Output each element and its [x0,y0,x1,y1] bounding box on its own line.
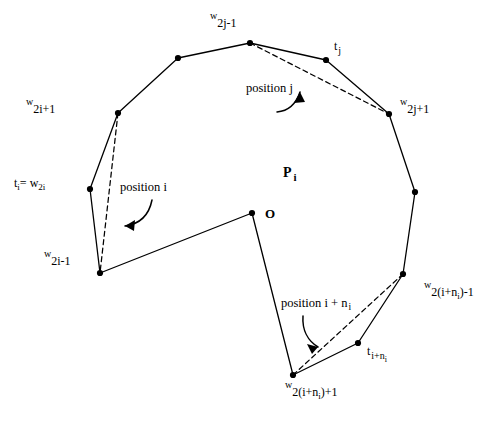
label-w-2-i-plus-ni-plus-1: w2(i+ni)+1 [285,383,338,398]
label-t-i-equals-w-2i: ti= w2i [14,177,45,189]
label-t-ini-sub: i+ni [371,350,387,361]
vertex-origin-o [249,210,255,216]
annotation-position-i-plus-ni: position i + ni [281,297,350,310]
label-w-2i-plus-1-base: w [26,96,33,107]
label-w-2j-minus-1-sub: 2j-1 [217,16,236,30]
label-t-ini-sub-sub: i [385,355,387,364]
annotation-position-i-text: position i [120,180,167,194]
annotation-arrowheads [125,92,318,354]
label-w-2iniplus1-base: w [285,379,292,390]
label-w-2i-plus-1: w2i+1 [26,100,55,115]
vertex-w-2-i-plus-ni-minus-1 [400,271,406,277]
label-w-2i-minus-1-base: w [44,248,51,259]
annotation-position-j-text: position j [246,81,293,95]
label-w-2i-minus-1: w2i-1 [44,252,71,267]
label-w-2j-plus-1-base: w [400,96,407,107]
vertex-w-2i-plus-1 [115,110,121,116]
label-w-2iniplus1-sub-sub: i [318,391,321,401]
label-t-j: tj [334,40,340,52]
label-w-2i-plus-1-sub: 2i+1 [33,102,55,116]
label-w-2i-minus-1-sub: 2i-1 [51,254,70,268]
label-w-2iniplus1-sub: 2(i+ni)+1 [292,385,337,399]
annotation-position-j: position j [246,82,293,95]
label-w-2iniplus1-sub-pre: 2(i+n [292,385,318,399]
label-w-2inimin1-base: w [424,279,431,290]
vertex-t-j [323,57,329,63]
label-equals-w: = w [20,176,38,190]
label-w-2inimin1-sub: 2(i+ni)-1 [431,285,474,299]
label-origin-o: O [265,207,275,220]
label-w-2-i-plus-ni-minus-1: w2(i+ni)-1 [424,283,474,298]
label-w-2i-sub: 2i [38,182,45,192]
label-polygon-p-sub: i [294,171,297,183]
label-w-2j-minus-1-base: w [210,10,217,21]
label-t-i-sub: i [17,182,20,192]
vertex-right-mid [412,189,418,195]
annotation-position-i-plus-ni-sub: i [348,302,351,312]
annotation-position-i: position i [120,181,167,194]
arrow-position-i-plus-ni [303,316,318,347]
annotation-position-i-plus-ni-pre: position i + n [281,296,347,310]
chord-position-j [250,43,389,114]
label-w-2inimin1-sub-sub: i [457,291,460,301]
label-polygon-p-i: Pi [283,166,295,180]
vertex-upper-left-mid [175,55,181,61]
arrow-position-i [125,200,152,226]
label-w-2iniplus1-sub-post: )+1 [321,385,338,399]
label-t-i-plus-ni: ti+ni [367,345,386,357]
label-t-j-base: t [334,39,337,53]
arrowhead-position-j [294,92,305,103]
vertex-w-2-i-plus-ni-plus-1 [290,372,296,378]
vertex-t-i-plus-ni [355,340,361,346]
label-t-ini-base: t [367,344,370,358]
vertex-w-2i-minus-1 [97,270,103,276]
polygon-diagram: w2j-1 tj w2j+1 w2i+1 ti= w2i w2i-1 w2(i+… [0,0,503,423]
vertex-t-i-eq-w-2i [87,186,93,192]
vertex-w-2j-plus-1 [386,111,392,117]
label-w-2j-plus-1: w2j+1 [400,100,429,115]
label-w-2inimin1-sub-pre: 2(i+n [431,285,457,299]
diagram-canvas [0,0,503,423]
label-polygon-p-base: P [283,165,292,180]
vertex-w-2j-minus-1 [247,40,253,46]
label-t-ini-sub-pre: i+n [371,350,384,361]
label-t-j-sub: j [338,45,341,56]
arrowhead-position-i [125,220,135,231]
label-origin-o-text: O [265,206,275,221]
label-w-2j-minus-1: w2j-1 [210,14,237,29]
label-w-2j-plus-1-sub: 2j+1 [407,102,429,116]
label-w-2inimin1-sub-post: )-1 [460,285,474,299]
